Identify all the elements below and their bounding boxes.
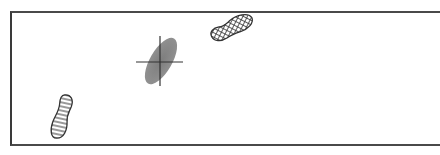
error-ellipse-icon	[138, 33, 183, 89]
right-footprint-icon	[208, 12, 256, 43]
left-footprint-icon	[49, 93, 73, 140]
